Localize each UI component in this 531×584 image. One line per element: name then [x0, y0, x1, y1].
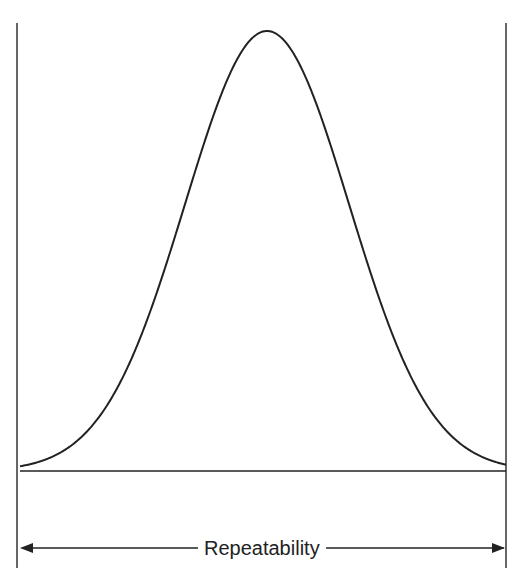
dimension-label: Repeatability: [198, 537, 326, 559]
diagram-canvas: [0, 0, 531, 584]
bell-curve: [20, 31, 506, 466]
arrow-right-icon: [492, 543, 505, 553]
arrow-left-icon: [20, 543, 33, 553]
